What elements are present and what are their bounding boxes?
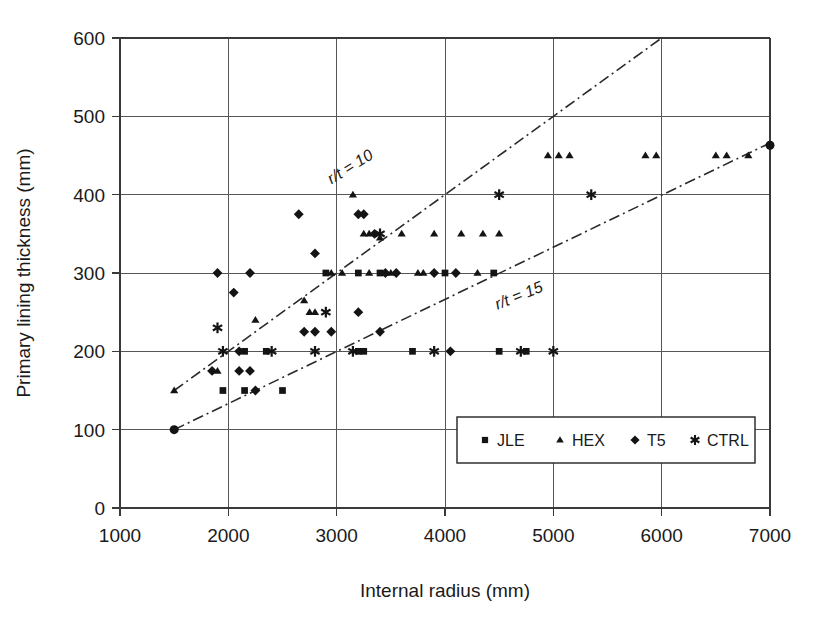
y-tick-label: 500 [73,106,105,127]
y-axis-title: Primary lining thickness (mm) [13,148,34,397]
data-point-jle [241,387,248,394]
data-point-t5 [170,425,179,434]
legend-label-t5: T5 [647,432,666,449]
x-tick-label: 7000 [749,525,791,546]
y-tick-label: 200 [73,341,105,362]
data-point-t5 [765,141,774,150]
y-tick-label: 300 [73,263,105,284]
x-tick-label: 6000 [641,525,683,546]
y-tick-label: 0 [94,498,105,519]
y-tick-label: 600 [73,28,105,49]
data-point-jle [360,348,367,355]
chart-canvas: 1000200030004000500060007000010020030040… [0,0,814,636]
data-point-jle [279,387,286,394]
y-tick-label: 100 [73,420,105,441]
legend-label-hex: HEX [572,432,605,449]
x-axis-title: Internal radius (mm) [360,580,530,601]
legend-label-ctrl: CTRL [707,432,749,449]
data-point-jle [496,348,503,355]
legend-marker-square-icon [482,437,488,443]
legend-label-jle: JLE [497,432,525,449]
data-point-jle [490,270,497,277]
data-point-jle [409,348,416,355]
x-tick-label: 4000 [424,525,466,546]
x-tick-label: 3000 [316,525,358,546]
data-point-jle [220,387,227,394]
x-tick-label: 5000 [532,525,574,546]
legend[interactable]: JLEHEXT5CTRL [457,417,755,463]
x-tick-label: 1000 [99,525,141,546]
y-tick-label: 400 [73,185,105,206]
data-point-jle [355,270,362,277]
data-point-jle [442,270,449,277]
scatter-plot-figure: 1000200030004000500060007000010020030040… [0,0,814,636]
x-tick-label: 2000 [207,525,249,546]
